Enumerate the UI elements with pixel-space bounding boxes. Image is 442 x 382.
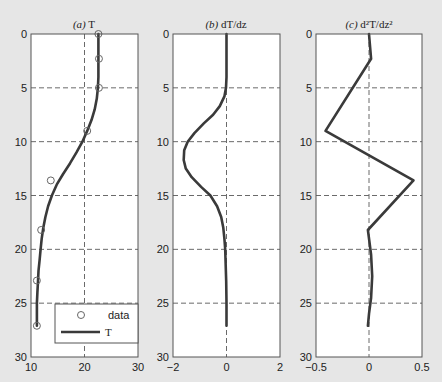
- y-tick-label: 0: [306, 28, 312, 40]
- y-tick-label: 5: [306, 82, 312, 94]
- y-tick-label: 5: [163, 82, 169, 94]
- x-tick-label: 2: [277, 361, 283, 373]
- x-tick-label: 0: [223, 361, 229, 373]
- panel-b-plot-area: [173, 34, 280, 357]
- x-tick-label: −0.5: [305, 361, 327, 373]
- y-tick-label: 10: [157, 136, 169, 148]
- y-tick-label: 15: [15, 190, 27, 202]
- panel-b-gradient: (b) dT/dz 051015202530 −202: [157, 18, 283, 373]
- panel-b-title: (b) dT/dz: [205, 18, 246, 31]
- x-tick-label: 30: [132, 361, 144, 373]
- y-tick-label: 0: [163, 28, 169, 40]
- figure: (a) T 051015202530 102030 (b) dT/dz 0510…: [0, 0, 442, 382]
- legend-label-data: data: [108, 309, 130, 321]
- panel-c-second-derivative: (c) d²T/dz² 051015202530 −0.500.5: [300, 18, 430, 373]
- x-tick-label: 20: [78, 361, 90, 373]
- legend-label-t: T: [105, 326, 112, 338]
- legend: data T: [55, 304, 138, 343]
- x-tick-label: −2: [167, 361, 180, 373]
- panel-c-title: (c) d²T/dz²: [345, 18, 393, 31]
- y-tick-label: 20: [157, 243, 169, 255]
- x-tick-label: 10: [25, 361, 37, 373]
- y-tick-label: 5: [21, 82, 27, 94]
- y-tick-label: 15: [300, 190, 312, 202]
- y-tick-label: 25: [157, 297, 169, 309]
- panel-a-title: (a) T: [73, 18, 95, 31]
- x-tick-label: 0.5: [414, 361, 429, 373]
- panel-c-plot-area: [316, 34, 422, 357]
- y-tick-label: 25: [15, 297, 27, 309]
- y-tick-label: 10: [15, 136, 27, 148]
- x-tick-label: 0: [366, 361, 372, 373]
- y-tick-label: 15: [157, 190, 169, 202]
- y-tick-label: 25: [300, 297, 312, 309]
- y-tick-label: 0: [21, 28, 27, 40]
- y-tick-label: 20: [15, 243, 27, 255]
- y-tick-label: 10: [300, 136, 312, 148]
- y-tick-label: 20: [300, 243, 312, 255]
